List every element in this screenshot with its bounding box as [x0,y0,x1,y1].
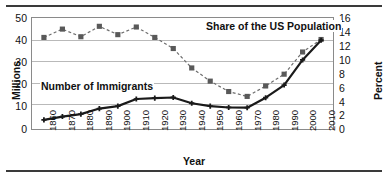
right-tick-8: 8 [339,69,361,79]
share-point-1890 [97,24,102,29]
right-tick-6: 6 [339,83,361,93]
immigrants-point-1930 [171,95,176,100]
x-tick-1880: 1880 [84,110,95,131]
right-tick-2: 2 [339,110,361,120]
x-tick-1910: 1910 [140,110,151,131]
left-axis-title: Millions [10,61,22,100]
x-tick-1950: 1950 [214,110,225,131]
share-point-1860 [41,35,46,40]
x-tick-1920: 1920 [159,110,170,131]
left-tick-0: 0 [5,124,27,134]
share-point-1990 [282,72,287,77]
x-tick-1860: 1860 [47,110,58,131]
immigrants-point-1920 [152,96,157,101]
immigrants-point-1890 [97,106,102,111]
immigrants-point-1960 [226,105,231,110]
left-tick-10: 10 [5,101,27,111]
right-tick-4: 4 [339,97,361,107]
share-point-1980 [263,83,268,88]
right-tick-10: 10 [339,55,361,65]
x-tick-2010: 2010 [326,110,337,131]
bottom-rule [6,170,382,172]
immigrants-point-1940 [189,101,194,106]
x-axis-title: Year [0,155,388,167]
right-tick-0: 0 [339,124,361,134]
immigrants-point-1870 [60,114,65,119]
immigrants-point-1860 [41,117,46,122]
immigrants-series-label: Number of Immigrants [40,80,154,92]
x-tick-1930: 1930 [177,110,188,131]
share-point-1940 [189,65,194,70]
left-tick-50: 50 [5,13,27,23]
share-point-2000 [300,49,305,54]
share-point-1920 [152,35,157,40]
share-point-1870 [60,27,65,32]
share-point-1910 [134,24,139,29]
top-rule [6,5,382,7]
x-tick-1890: 1890 [103,110,114,131]
x-tick-1980: 1980 [270,110,281,131]
share-point-1970 [245,94,250,99]
left-tick-40: 40 [5,35,27,45]
x-tick-1940: 1940 [196,110,207,131]
share-point-1950 [208,79,213,84]
share-point-1880 [78,34,83,39]
right-tick-12: 12 [339,41,361,51]
x-tick-1900: 1900 [121,110,132,131]
x-tick-1960: 1960 [233,110,244,131]
share-point-1930 [171,46,176,51]
immigration-chart-figure: 50 40 30 20 10 0 16 14 12 10 8 6 4 2 0 M… [0,0,388,183]
x-tick-2000: 2000 [307,110,318,131]
immigrants-point-1880 [78,112,83,117]
share-point-1900 [115,32,120,37]
x-tick-1970: 1970 [252,110,263,131]
x-tick-1990: 1990 [289,110,300,131]
share-series-label: Share of the US Population [205,20,342,32]
right-axis-title: Percent [372,61,384,100]
share-point-1960 [226,89,231,94]
immigrants-point-1950 [208,104,213,109]
x-tick-1870: 1870 [66,110,77,131]
